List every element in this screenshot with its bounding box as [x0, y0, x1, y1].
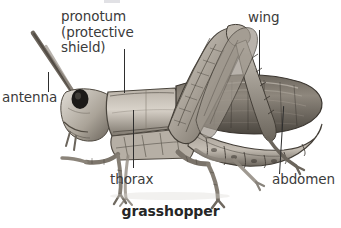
compound-eye — [72, 89, 89, 109]
label-pronotum-line1: pronotum — [61, 9, 134, 25]
label-abdomen: abdomen — [272, 172, 335, 188]
label-antenna: antenna — [2, 90, 57, 106]
leader-line-pronotum — [124, 49, 125, 93]
label-pronotum-line3: shield) — [61, 40, 134, 56]
grasshopper-diagram-figure: pronotum (protective shield) antenna win… — [0, 0, 341, 228]
label-pronotum: pronotum (protective shield) — [61, 9, 134, 56]
leader-line-wing — [259, 30, 260, 75]
label-thorax: thorax — [110, 172, 153, 188]
grasshopper-illustration — [0, 0, 341, 228]
label-pronotum-line2: (protective — [61, 25, 134, 41]
label-wing: wing — [248, 10, 280, 26]
head-shape — [61, 89, 110, 150]
leader-line-thorax — [133, 110, 134, 168]
figure-caption: grasshopper — [0, 203, 341, 219]
